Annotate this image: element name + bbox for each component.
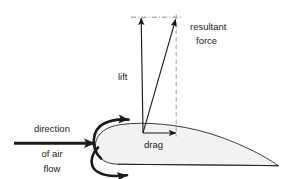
airflow-label-line2: of air	[41, 148, 62, 159]
lift-label: lift	[118, 71, 128, 82]
lift-vector	[141, 18, 143, 133]
resultant-force-label-line2: force	[196, 35, 217, 46]
drag-label: drag	[144, 139, 163, 150]
airflow-label-line1: direction	[34, 123, 70, 134]
aerofoil-outline	[95, 123, 278, 166]
resultant-force-vector	[143, 20, 176, 134]
resultant-force-label-line1: resultant	[190, 21, 227, 32]
construction-lines	[131, 15, 181, 137]
diagram-canvas: lift drag resultant force direction of a…	[0, 0, 285, 179]
aerofoil-section	[95, 123, 278, 166]
force-vectors	[141, 18, 176, 133]
airflow-label-line3: flow	[44, 163, 61, 174]
airfoil-forces-diagram: lift drag resultant force direction of a…	[0, 0, 285, 179]
